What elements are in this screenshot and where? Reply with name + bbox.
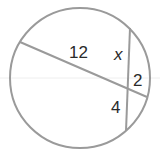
label-x: x bbox=[113, 45, 123, 64]
label-4: 4 bbox=[111, 98, 120, 117]
label-12: 12 bbox=[69, 43, 88, 62]
chord-diagram: 12 x 2 4 bbox=[0, 0, 160, 162]
chord-b bbox=[126, 28, 130, 131]
label-2: 2 bbox=[133, 71, 142, 90]
